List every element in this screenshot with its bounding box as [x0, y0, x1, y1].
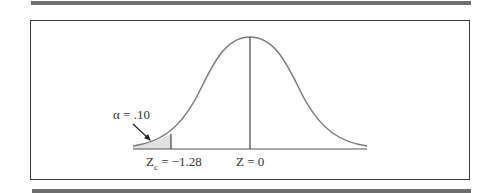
center-z-label: Z = 0 [236, 155, 264, 168]
critical-z-symbol: Z [146, 154, 154, 169]
alpha-label: α = .10 [113, 108, 150, 121]
critical-z-value: = −1.28 [158, 154, 202, 169]
critical-value-label: Zc = −1.28 [146, 155, 202, 172]
